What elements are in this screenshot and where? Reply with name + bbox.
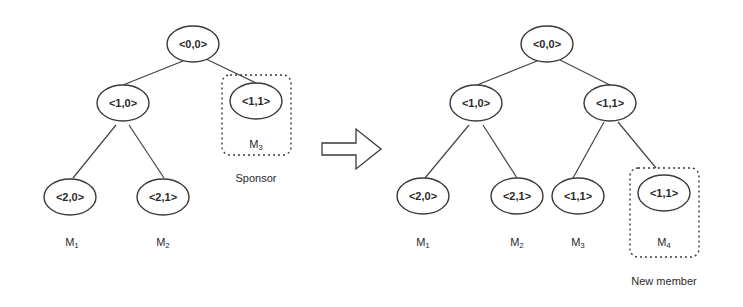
edge-n10-to-n21 (483, 125, 517, 178)
member-label-m1: M1 (65, 236, 79, 250)
node-label: <1,1> (564, 190, 592, 202)
key-tree-diagram: <0,0> <1,0> <1,1> <2,0> <2,1> M3 M1 M2 S… (0, 0, 743, 307)
node-label: <0,0> (179, 38, 207, 50)
node-label: <1,0> (109, 97, 137, 109)
left-tree: <0,0> <1,0> <1,1> <2,0> <2,1> M3 M1 M2 S… (44, 26, 291, 250)
member-label-m2: M2 (156, 236, 170, 250)
node-label: <1,1> (596, 97, 624, 109)
edge-n11-to-m3 (573, 122, 604, 178)
edge-root-to-n10 (123, 61, 183, 85)
edge-root-to-n11 (560, 60, 610, 85)
node-label: <0,0> (533, 38, 561, 50)
transition-arrow-icon (322, 129, 381, 169)
node-2-1: <2,1> (137, 179, 189, 215)
edge-n10-to-n20 (73, 125, 116, 178)
node-label: <1,1> (242, 95, 270, 107)
node-label: <1,1> (650, 187, 678, 199)
node-root: <0,0> (521, 26, 573, 62)
new-member-caption: New member (631, 275, 697, 287)
node-label: <2,0> (409, 190, 437, 202)
node-m4-new-member: <1,1> (638, 175, 690, 211)
node-1-1-sponsor: <1,1> (230, 83, 282, 119)
edge-n10-to-n20 (425, 125, 469, 178)
member-label-m2: M2 (510, 236, 524, 250)
edge-n10-to-n21 (129, 125, 164, 178)
node-root: <0,0> (167, 26, 219, 62)
right-tree: <0,0> <1,0> <1,1> <2,0> <2,1> <1,1> <1,1… (397, 26, 699, 287)
node-m3: <1,1> (552, 178, 604, 214)
edge-root-to-n11 (206, 59, 256, 83)
member-label-m1: M1 (416, 236, 430, 250)
node-1-1: <1,1> (584, 85, 636, 121)
member-label-m3: M3 (249, 138, 263, 152)
member-label-m4: M4 (657, 236, 671, 250)
edge-n11-to-m4 (618, 122, 656, 168)
node-2-1: <2,1> (491, 178, 543, 214)
node-1-0: <1,0> (450, 85, 502, 121)
node-2-0: <2,0> (397, 178, 449, 214)
node-1-0: <1,0> (97, 85, 149, 121)
node-label: <2,1> (503, 190, 531, 202)
member-label-m3: M3 (571, 236, 585, 250)
sponsor-caption: Sponsor (236, 172, 277, 184)
node-label: <1,0> (462, 97, 490, 109)
node-label: <2,1> (149, 191, 177, 203)
node-2-0: <2,0> (44, 179, 96, 215)
node-label: <2,0> (56, 191, 84, 203)
edge-root-to-n10 (477, 61, 537, 85)
